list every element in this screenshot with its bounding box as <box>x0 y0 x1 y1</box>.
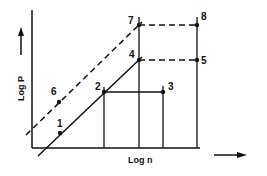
point-7 <box>137 23 141 27</box>
y-axis-arrow-icon <box>18 27 24 55</box>
point-label-4: 4 <box>129 49 135 60</box>
x-axis-label: Log n <box>128 155 153 165</box>
point-label-7: 7 <box>128 15 134 26</box>
point-label-6: 6 <box>51 86 57 97</box>
point-label-8: 8 <box>201 11 207 22</box>
point-label-5: 5 <box>201 55 207 66</box>
x-axis-arrow-icon <box>214 152 247 158</box>
point-8 <box>195 23 199 27</box>
log-p-log-n-diagram: 1 2 3 4 5 6 7 8 Log P Log n <box>0 0 267 176</box>
point-5 <box>195 58 199 62</box>
point-2 <box>102 90 106 94</box>
dashed-diagonal-line <box>26 22 142 135</box>
point-label-1: 1 <box>57 118 63 129</box>
point-6 <box>57 100 61 104</box>
y-axis-label: Log P <box>16 76 26 101</box>
point-4 <box>137 58 141 62</box>
point-1 <box>58 131 62 135</box>
point-3 <box>161 90 165 94</box>
point-label-3: 3 <box>168 81 174 92</box>
point-label-2: 2 <box>95 81 101 92</box>
solid-diagonal-line <box>38 57 142 156</box>
